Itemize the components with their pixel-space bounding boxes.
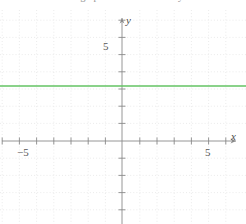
- y-axis-label: y: [126, 14, 131, 26]
- gridlines: [0, 10, 246, 224]
- y-axis: [120, 18, 125, 224]
- figure-container: Sketch the graph of the derivative y′ of…: [0, 0, 246, 224]
- problem-statement: Sketch the graph of the derivative y′ of…: [0, 0, 246, 9]
- y-tick-label-5: 5: [103, 40, 109, 52]
- x-axis: [2, 139, 236, 144]
- plot-svg: [0, 10, 246, 224]
- x-tick-label-minus5: −5: [17, 146, 29, 158]
- coordinate-plot: x y 5 −5 5: [0, 10, 246, 224]
- x-axis-label: x: [231, 130, 236, 142]
- x-tick-label-5: 5: [205, 146, 211, 158]
